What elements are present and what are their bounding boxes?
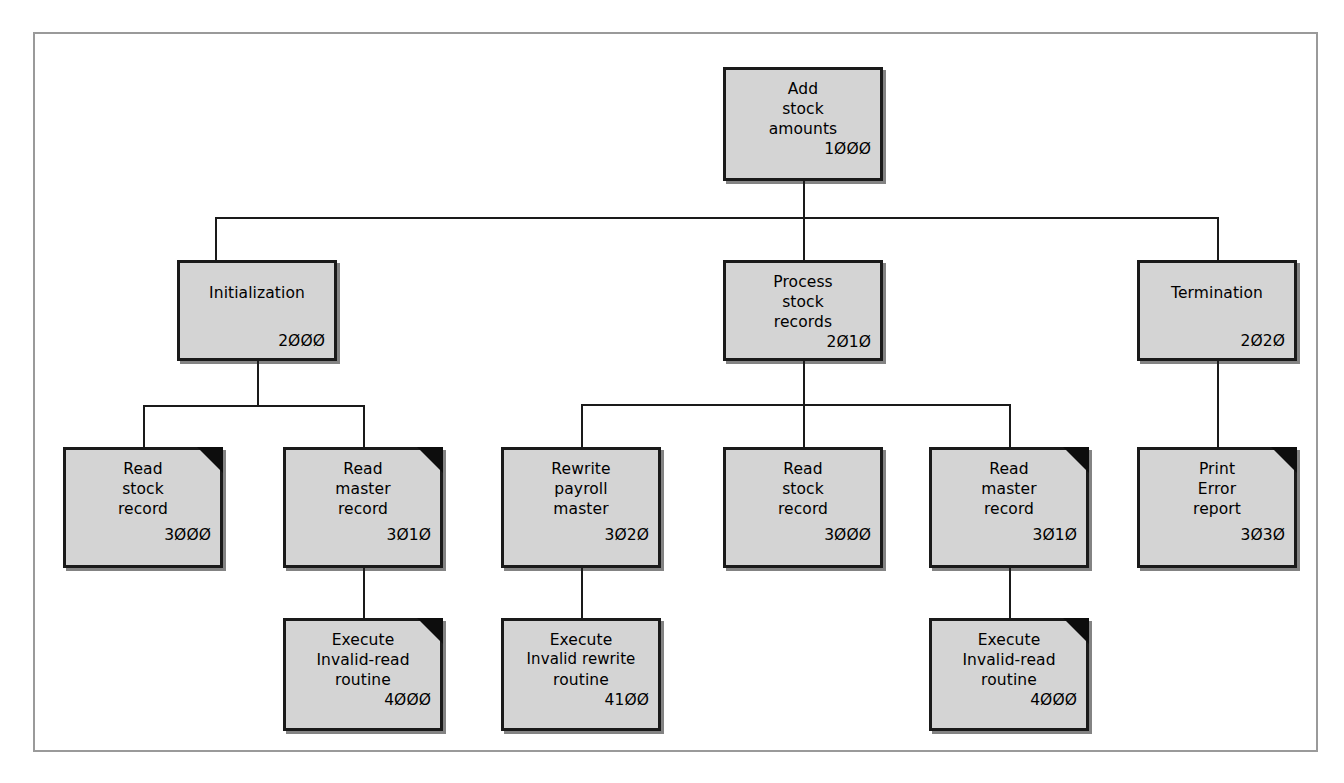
module-execute-invalid-read-routine-4000-process[interactable]: Execute Invalid-read routine 4ØØØ [929, 618, 1089, 731]
connector-stem-3020-to-4100 [581, 568, 583, 618]
module-line-2: Error [1140, 479, 1294, 499]
module-line-3: routine [286, 670, 440, 690]
module-execute-invalid-read-routine-4000-initialization[interactable]: Execute Invalid-read routine 4ØØØ [283, 618, 443, 731]
module-number: 4ØØØ [286, 690, 440, 710]
module-rewrite-payroll-master-3020[interactable]: Rewrite payroll master 3Ø2Ø [501, 447, 661, 568]
module-number: 2ØØØ [180, 331, 334, 351]
module-line-3: records [726, 312, 880, 332]
connector-initialization-bus [143, 405, 363, 407]
module-line-3: routine [932, 670, 1086, 690]
module-line-1: Execute [504, 630, 658, 650]
module-line-3: report [1140, 499, 1294, 519]
predefined-module-corner-icon [417, 447, 443, 473]
module-add-stock-amounts-1000[interactable]: Add stock amounts 1ØØØ [723, 67, 883, 181]
module-line-3: record [286, 499, 440, 519]
module-line-2: Invalid rewrite [504, 650, 658, 670]
connector-stem-3010b-to-4000b [1009, 568, 1011, 618]
module-number: 2Ø2Ø [1140, 331, 1294, 351]
module-line-3: record [932, 499, 1086, 519]
module-read-master-record-3010-process[interactable]: Read master record 3Ø1Ø [929, 447, 1089, 568]
module-line-1: Read [726, 459, 880, 479]
module-read-stock-record-3000-process[interactable]: Read stock record 3ØØØ [723, 447, 883, 568]
connector-drop-initialization [215, 217, 217, 260]
connector-process-bus [581, 404, 1009, 406]
connector-drop-rewrite-3020 [581, 404, 583, 447]
module-line-2: Invalid-read [286, 650, 440, 670]
module-line-2: Invalid-read [932, 650, 1086, 670]
connector-termination-stem [1217, 361, 1219, 447]
predefined-module-corner-icon [197, 447, 223, 473]
module-execute-invalid-rewrite-routine-4100[interactable]: Execute Invalid rewrite routine 41ØØ [501, 618, 661, 731]
connector-drop-read-stock-3000a [143, 405, 145, 447]
module-termination-2020[interactable]: Termination 2Ø2Ø [1137, 260, 1297, 361]
connector-drop-termination [1217, 217, 1219, 260]
connector-drop-read-master-3010b [1009, 404, 1011, 447]
module-line-1: Process [726, 272, 880, 292]
module-initialization-2000[interactable]: Initialization 2ØØØ [177, 260, 337, 361]
module-line-2: stock [726, 292, 880, 312]
module-read-master-record-3010-initialization[interactable]: Read master record 3Ø1Ø [283, 447, 443, 568]
figure-border: Add stock amounts 1ØØØ Initialization 2Ø… [33, 32, 1318, 752]
connector-drop-read-stock-3000b [803, 404, 805, 447]
connector-drop-process [803, 217, 805, 260]
module-line-2: master [932, 479, 1086, 499]
module-line-2: payroll [504, 479, 658, 499]
module-number: 3Ø3Ø [1140, 525, 1294, 545]
module-print-error-report-3030[interactable]: Print Error report 3Ø3Ø [1137, 447, 1297, 568]
module-line-3: amounts [726, 119, 880, 139]
module-process-stock-records-2010[interactable]: Process stock records 2Ø1Ø [723, 260, 883, 361]
predefined-module-corner-icon [1063, 447, 1089, 473]
predefined-module-corner-icon [1271, 447, 1297, 473]
module-line-3: record [66, 499, 220, 519]
module-number: 3Ø2Ø [504, 525, 658, 545]
module-line-1: Rewrite [504, 459, 658, 479]
predefined-module-corner-icon [1063, 618, 1089, 644]
connector-level2-bus [215, 217, 1217, 219]
module-line-2: stock [726, 99, 880, 119]
structure-chart-figure: Add stock amounts 1ØØØ Initialization 2Ø… [0, 0, 1344, 783]
module-line-2: stock [66, 479, 220, 499]
module-number: 4ØØØ [932, 690, 1086, 710]
connector-drop-read-master-3010a [363, 405, 365, 447]
module-number: 2Ø1Ø [726, 332, 880, 352]
module-line-1: Termination [1140, 283, 1294, 303]
module-line-2: master [286, 479, 440, 499]
module-number: 3Ø1Ø [932, 525, 1086, 545]
connector-root-stem [803, 181, 805, 218]
module-read-stock-record-3000-initialization[interactable]: Read stock record 3ØØØ [63, 447, 223, 568]
module-number: 1ØØØ [726, 139, 880, 159]
module-number: 41ØØ [504, 690, 658, 710]
connector-process-stem [803, 361, 805, 405]
module-number: 3ØØØ [726, 525, 880, 545]
module-line-3: master [504, 499, 658, 519]
connector-initialization-stem [257, 361, 259, 406]
module-line-3: record [726, 499, 880, 519]
module-number: 3ØØØ [66, 525, 220, 545]
connector-stem-3010a-to-4000a [363, 568, 365, 618]
module-line-3: routine [504, 670, 658, 690]
module-number: 3Ø1Ø [286, 525, 440, 545]
module-line-1: Add [726, 79, 880, 99]
predefined-module-corner-icon [417, 618, 443, 644]
module-line-1: Initialization [180, 283, 334, 303]
module-line-2: stock [726, 479, 880, 499]
